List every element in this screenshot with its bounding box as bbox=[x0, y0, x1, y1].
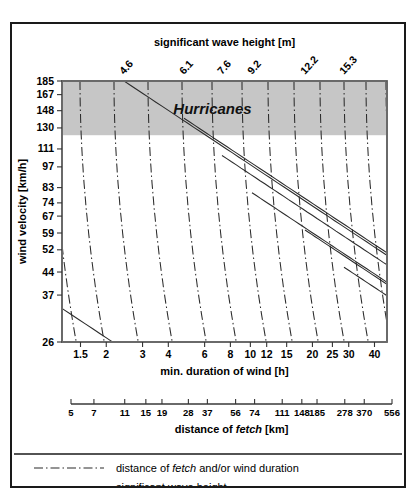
duration-axis-tick-label: 25 bbox=[327, 348, 339, 360]
y-axis-tick-label: 52 bbox=[42, 243, 54, 255]
top-axis-tick-group: 4.6 bbox=[117, 57, 136, 76]
legend-item-label: distance of fetch and/or wind duration bbox=[116, 462, 299, 474]
top-axis-tick-label: 9.2 bbox=[245, 57, 264, 76]
top-axis-tick-group: 7.6 bbox=[215, 57, 234, 76]
y-axis-tick-label: 67 bbox=[42, 210, 54, 222]
fetch-axis-title-post: [km] bbox=[262, 423, 289, 435]
fetch-axis-title-group: distance of fetch [km] bbox=[175, 423, 289, 435]
y-axis-tick-label: 130 bbox=[36, 121, 54, 133]
fetch-axis-tick-label: 37 bbox=[202, 407, 213, 418]
band-label-group: Hurricanes bbox=[173, 100, 251, 117]
fetch-axis-tick-label: 28 bbox=[183, 407, 194, 418]
fetch-axis-tick-label: 74 bbox=[249, 407, 260, 418]
top-axis-tick-group: 6.1 bbox=[177, 57, 196, 76]
duration-axis-tick-label: 20 bbox=[307, 348, 319, 360]
y-axis-tick-label: 59 bbox=[42, 227, 54, 239]
top-axis-tick-group: 9.2 bbox=[245, 57, 264, 76]
duration-axis-title: min. duration of wind [h] bbox=[160, 365, 289, 377]
fetch-axis-title: distance of fetch [km] bbox=[175, 423, 289, 435]
top-axis-title: significant wave height [m] bbox=[154, 36, 296, 48]
wave-height-nomogram: significant wave height [m]4.66.17.69.21… bbox=[12, 24, 404, 486]
y-axis-title: wind velocity [km/h] bbox=[16, 159, 28, 265]
fetch-axis-tick-label: 5 bbox=[68, 407, 74, 418]
fetch-axis-tick-label: 19 bbox=[157, 407, 168, 418]
y-axis-tick-label: 97 bbox=[42, 160, 54, 172]
duration-axis-tick-label: 4 bbox=[165, 348, 171, 360]
figure-frame: significant wave height [m]4.66.17.69.21… bbox=[10, 22, 406, 488]
top-axis: significant wave height [m]4.66.17.69.21… bbox=[117, 36, 360, 76]
top-axis-tick-label: 6.1 bbox=[177, 57, 196, 76]
duration-axis-tick-label: 15 bbox=[281, 348, 293, 360]
duration-axis: 1.52346810121520253040min. duration of w… bbox=[62, 342, 387, 377]
hurricane-band-label: Hurricanes bbox=[173, 100, 251, 117]
y-axis-tick-label: 37 bbox=[42, 289, 54, 301]
duration-axis-tick-label: 6 bbox=[202, 348, 208, 360]
duration-axis-tick-label: 1.5 bbox=[73, 348, 88, 360]
duration-axis-tick-label: 40 bbox=[369, 348, 381, 360]
fetch-axis-tick-label: 370 bbox=[356, 407, 372, 418]
duration-axis-tick-label: 2 bbox=[103, 348, 109, 360]
duration-axis-tick-label: 30 bbox=[343, 348, 355, 360]
duration-axis-tick-label: 12 bbox=[261, 348, 273, 360]
fetch-duration-curve bbox=[386, 81, 404, 352]
duration-axis-tick-label: 10 bbox=[245, 348, 257, 360]
fetch-axis-tick-label: 111 bbox=[275, 407, 291, 418]
fetch-axis-title-pre: distance of bbox=[175, 423, 236, 435]
fetch-axis-tick-label: 278 bbox=[337, 407, 353, 418]
top-axis-tick-group: 12.2 bbox=[298, 53, 321, 76]
top-axis-tick-label: 15.3 bbox=[337, 53, 360, 76]
fetch-axis-tick-label: 556 bbox=[384, 407, 400, 418]
fetch-axis-tick-label: 185 bbox=[309, 407, 326, 418]
legend-label-post: and/or wind duration bbox=[196, 462, 299, 474]
y-axis-tick-label: 167 bbox=[36, 88, 54, 100]
top-axis-tick-group: 15.3 bbox=[337, 53, 360, 76]
y-axis-tick-label: 26 bbox=[42, 336, 54, 348]
y-axis: wind velocity [km/h]18516714813011197837… bbox=[16, 75, 62, 348]
y-axis-tick-label: 83 bbox=[42, 181, 54, 193]
top-axis-tick-label: 7.6 bbox=[215, 57, 234, 76]
top-axis-tick-label: 12.2 bbox=[298, 53, 321, 76]
fetch-axis-tick-label: 56 bbox=[230, 407, 241, 418]
legend-label-pre: significant wave height bbox=[116, 481, 227, 486]
fetch-axis-tick-label: 7 bbox=[91, 407, 96, 418]
y-axis-tick-label: 185 bbox=[36, 75, 54, 87]
y-axis-tick-label: 111 bbox=[38, 142, 55, 154]
legend-label-pre: distance of bbox=[116, 462, 172, 474]
fetch-axis-title-em: fetch bbox=[236, 423, 263, 435]
duration-axis-tick-label: 3 bbox=[140, 348, 146, 360]
legend-item-label: significant wave height bbox=[116, 481, 227, 486]
legend-label-em: fetch bbox=[172, 462, 196, 474]
fetch-axis: 5711151928375674111148185278370556distan… bbox=[68, 399, 400, 435]
fetch-axis-tick-label: 15 bbox=[141, 407, 152, 418]
y-axis-tick-label: 74 bbox=[42, 196, 54, 208]
plot-area bbox=[52, 81, 404, 456]
fetch-axis-tick-label: 148 bbox=[294, 407, 310, 418]
top-axis-tick-label: 4.6 bbox=[117, 57, 136, 76]
fetch-axis-tick-label: 11 bbox=[120, 407, 131, 418]
legend: distance of fetch and/or wind durationsi… bbox=[14, 454, 402, 486]
nomogram-stage: significant wave height [m]4.66.17.69.21… bbox=[12, 24, 404, 486]
y-axis-tick-label: 148 bbox=[36, 104, 54, 116]
duration-axis-tick-label: 8 bbox=[227, 348, 233, 360]
y-axis-tick-label: 44 bbox=[42, 266, 54, 278]
